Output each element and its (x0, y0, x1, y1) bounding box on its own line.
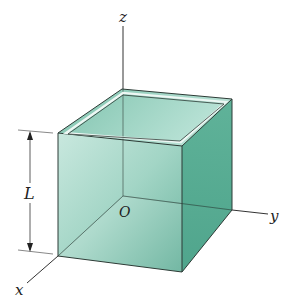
origin-label: O (119, 204, 131, 220)
cube-diagram: z y x O L (0, 0, 298, 304)
arrow-down-icon (27, 243, 33, 252)
dim-ext-top (18, 130, 53, 133)
y-axis-label: y (269, 207, 279, 225)
x-axis-line (27, 256, 58, 283)
x-axis-label: x (15, 281, 24, 299)
arrow-up-icon (27, 131, 33, 140)
dim-ext-bottom (18, 250, 53, 254)
dimension-label: L (23, 184, 35, 203)
y-axis-line (232, 210, 268, 214)
front-face (58, 133, 182, 272)
z-axis-label: z (118, 8, 127, 26)
